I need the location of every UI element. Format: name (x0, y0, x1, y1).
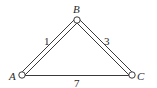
node-c (129, 72, 135, 78)
edge-b-c (76, 19, 134, 77)
node-a (19, 72, 25, 78)
node-label-a: A (8, 70, 16, 82)
graph-diagram: A B C 1 3 7 (0, 0, 157, 88)
edge-weight-a-c: 7 (74, 77, 80, 88)
node-label-b: B (73, 3, 80, 15)
node-b (74, 17, 80, 23)
edge-weight-b-c: 3 (104, 35, 110, 47)
edge-weight-a-b: 1 (44, 35, 50, 47)
edge-a-b (21, 19, 79, 77)
node-label-c: C (137, 70, 145, 82)
